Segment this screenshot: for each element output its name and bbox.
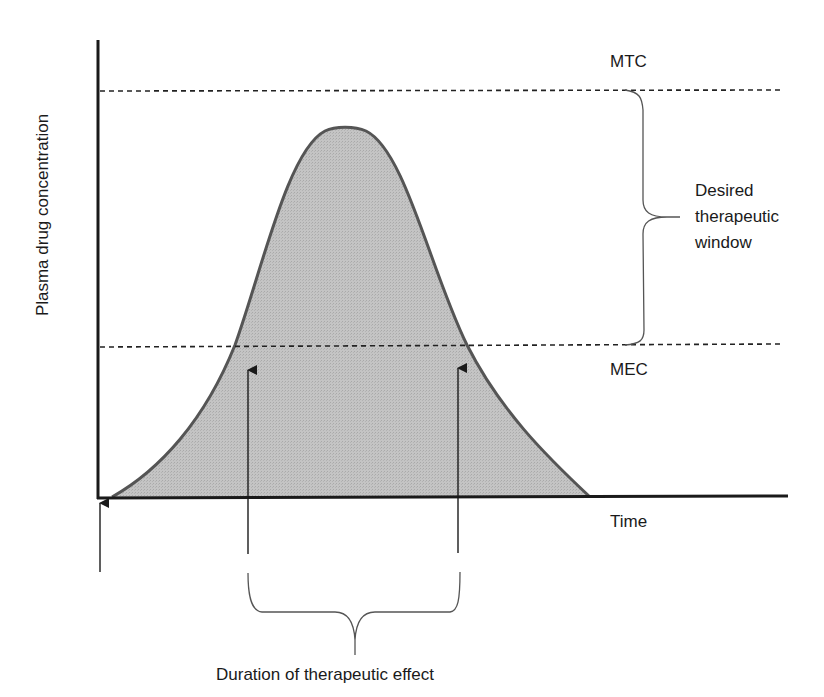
x-axis: [97, 496, 788, 498]
therapeutic-window-label-line-1: Desired: [695, 178, 779, 204]
duration-label: Duration of therapeutic effect: [216, 665, 434, 685]
x-axis-label: Time: [610, 512, 647, 532]
therapeutic-window-label: Desired therapeutic window: [695, 178, 779, 256]
therapeutic-window-brace: [625, 90, 680, 345]
y-axis-label: Plasma drug concentration: [33, 114, 53, 316]
concentration-curve-area: [112, 127, 590, 497]
concentration-time-diagram: [0, 0, 824, 697]
therapeutic-window-label-line-2: therapeutic: [695, 204, 779, 230]
mtc-label: MTC: [610, 52, 647, 72]
mec-label: MEC: [610, 360, 648, 380]
therapeutic-window-label-line-3: window: [695, 230, 779, 256]
duration-brace: [248, 572, 460, 655]
mtc-line: [100, 90, 783, 91]
